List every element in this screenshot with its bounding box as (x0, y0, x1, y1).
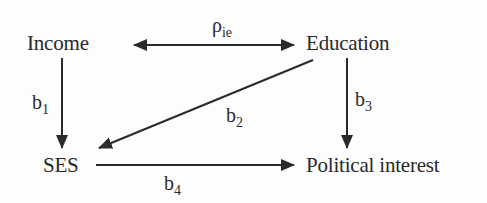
label-b2: b2 (226, 104, 243, 126)
label-rho-main: ρ (212, 14, 222, 36)
label-b4-main: b (164, 172, 174, 194)
label-rho-sub: ie (222, 25, 232, 40)
label-b2-main: b (226, 104, 236, 126)
label-b4-sub: 4 (174, 183, 181, 198)
label-b2-sub: 2 (236, 115, 243, 130)
edge-education-ses (99, 60, 313, 148)
label-b3-main: b (355, 88, 365, 110)
path-diagram: Income Education SES Political interest … (0, 0, 487, 203)
node-political-interest: Political interest (306, 153, 439, 177)
label-b3-sub: 3 (365, 99, 372, 114)
node-income: Income (27, 31, 89, 55)
node-ses: SES (43, 153, 79, 177)
label-b4: b4 (164, 172, 181, 194)
label-b1-sub: 1 (42, 102, 49, 117)
label-rho-ie: ρie (212, 14, 232, 36)
label-b1: b1 (32, 91, 49, 113)
label-b1-main: b (32, 91, 42, 113)
node-education: Education (306, 31, 389, 55)
label-b3: b3 (355, 88, 372, 110)
